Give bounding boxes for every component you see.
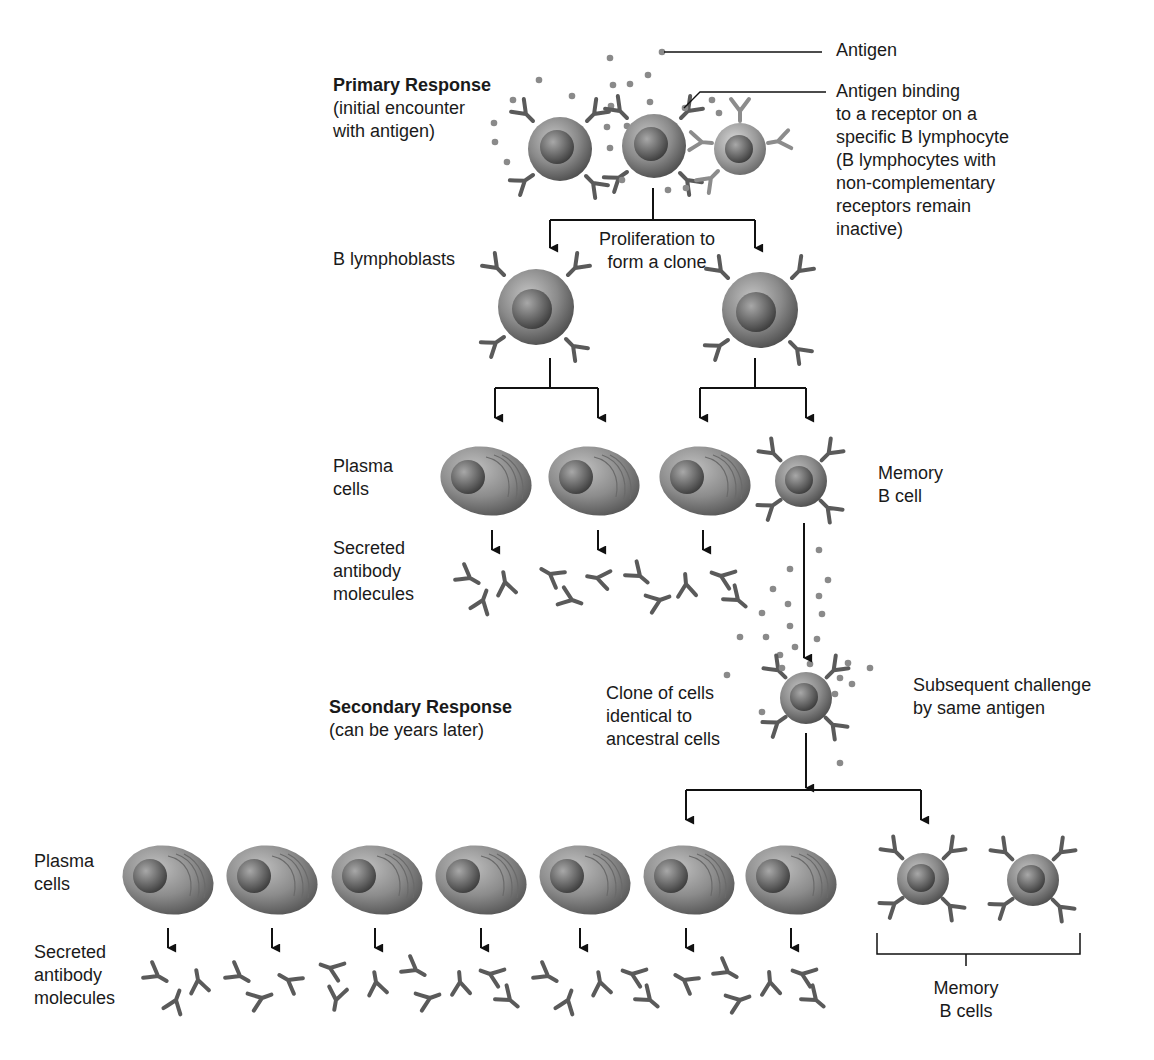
b-lymphocyte-unbound-left: [510, 99, 609, 198]
secretion-arrows-secondary: [168, 928, 791, 948]
primary-response-heading: Primary Response (initial encounter with…: [333, 51, 491, 166]
b-lymphoblast-left: [481, 253, 590, 361]
antigen-binding-label: Antigen binding to a receptor on a speci…: [836, 80, 1009, 241]
plasma-cells-label-secondary: Plasma cells: [34, 850, 94, 896]
proliferation-label: Proliferation to form a clone: [582, 228, 732, 274]
b-lymphocyte-noncomplementary: [689, 99, 791, 193]
differentiation-arrows: [495, 358, 806, 418]
plasma-cells-primary: [434, 438, 757, 524]
b-lymphocyte-bound-specific: [604, 96, 703, 195]
memory-b-cells-label: Memory B cells: [916, 977, 1016, 1023]
primary-response-subtitle: (initial encounter with antigen): [333, 97, 491, 143]
memory-b-cell-challenged: [759, 655, 849, 739]
memory-b-cells-secondary: [879, 836, 1075, 921]
b-lymphoblasts-label: B lymphoblasts: [333, 248, 455, 271]
memory-bracket: [877, 933, 1080, 966]
secondary-response-title: Secondary Response: [329, 697, 512, 717]
plasma-cells-label-primary: Plasma cells: [333, 455, 393, 501]
memory-b-cell-label: Memory B cell: [878, 462, 943, 508]
memory-b-cell-primary: [757, 438, 843, 522]
secondary-branch-arrows: [686, 733, 921, 820]
clone-identical-label: Clone of cells identical to ancestral ce…: [606, 682, 720, 751]
antigen-particles-secondary: [724, 547, 874, 767]
binding-leader-line: [684, 92, 826, 108]
primary-response-title: Primary Response: [333, 75, 491, 95]
secondary-response-subtitle: (can be years later): [329, 719, 512, 742]
secreted-antibody-label-primary: Secreted antibody molecules: [333, 537, 414, 606]
antigen-label: Antigen: [836, 39, 897, 62]
secondary-response-heading: Secondary Response (can be years later): [329, 673, 512, 765]
antibodies-secondary: [143, 956, 829, 1014]
secretion-arrows-primary: [492, 530, 703, 550]
plasma-cells-secondary: [116, 837, 843, 923]
subsequent-challenge-label: Subsequent challenge by same antigen: [913, 674, 1091, 720]
secreted-antibody-label-secondary: Secreted antibody molecules: [34, 941, 115, 1010]
antibodies-primary: [455, 561, 751, 614]
